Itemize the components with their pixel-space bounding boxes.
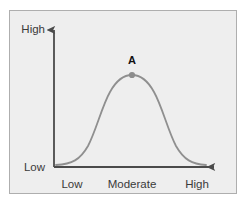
y-axis-high-label: High [21, 23, 45, 35]
x-axis-moderate-label: Moderate [108, 178, 157, 190]
x-axis-low-label: Low [61, 178, 83, 190]
bell-curve-path [56, 75, 206, 165]
chart-plot-area: A High Low Low Moderate High [0, 0, 247, 208]
y-axis-low-label: Low [24, 161, 46, 173]
figure-root: A High Low Low Moderate High [0, 0, 247, 208]
peak-point-label: A [128, 54, 136, 66]
peak-point-marker [129, 72, 135, 78]
x-axis-high-label: High [185, 178, 209, 190]
